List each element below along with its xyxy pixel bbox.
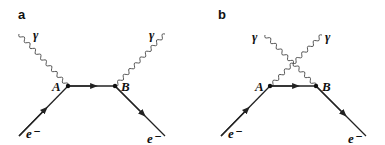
photon-label: γ (325, 29, 331, 44)
vertex-dot-a (268, 84, 272, 88)
vertex-label-a: A (254, 79, 264, 94)
photon-label: γ (33, 27, 39, 42)
photon-label: γ (149, 27, 155, 42)
panel-label-b: b (218, 7, 226, 22)
panel-label-a: a (18, 7, 26, 22)
feynman-diagrams: a γ γ A B e⁻ e⁻ b γ γ A B (0, 0, 385, 145)
panel-b: b γ γ A B e⁻ e⁻ (218, 7, 366, 145)
panel-a: a γ γ A B e⁻ e⁻ (18, 7, 165, 145)
photon-line-in (270, 35, 322, 86)
electron-label: e⁻ (228, 126, 243, 141)
vertex-label-b: B (120, 79, 130, 94)
electron-label: e⁻ (348, 131, 363, 145)
vertex-dot-b (314, 84, 318, 88)
vertex-dot-b (113, 84, 117, 88)
photon-label: γ (252, 29, 258, 44)
electron-label: e⁻ (26, 126, 41, 141)
vertex-label-a: A (51, 79, 61, 94)
vertex-label-b: B (321, 79, 331, 94)
vertex-dot-a (66, 84, 70, 88)
electron-label: e⁻ (147, 131, 162, 145)
photon-line-in (19, 34, 69, 86)
photon-line-out (265, 35, 316, 86)
